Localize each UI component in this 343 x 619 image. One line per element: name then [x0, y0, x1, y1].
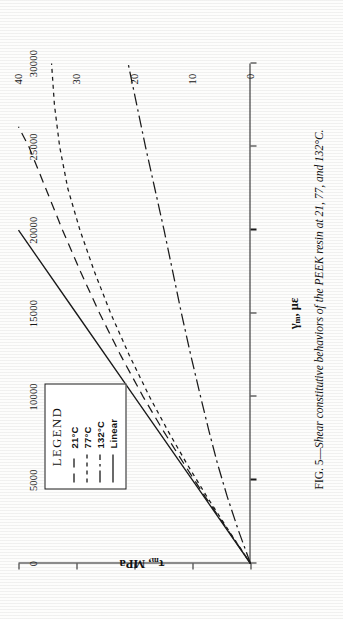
x-tick-label: 10000 — [27, 383, 38, 410]
y-tick-mark — [250, 563, 251, 569]
x-tick-mark — [250, 228, 256, 229]
legend-line-sample — [95, 454, 104, 482]
x-tick-mark — [250, 478, 256, 479]
x-tick-label: 0 — [27, 560, 38, 565]
x-tick-label: 25000 — [27, 133, 38, 160]
scanned-page: 050001000015000200002500030000 010203040… — [0, 0, 343, 619]
legend-box: LEGEND 21°C77°C132°CLinear — [44, 383, 126, 489]
legend-line-sample — [108, 454, 117, 482]
figure-caption: FIG. 5—Shear constitutive behaviors of t… — [312, 23, 324, 595]
y-tick-mark — [18, 563, 19, 569]
y-tick-label: 10 — [187, 73, 198, 84]
legend-item-label: 77°C — [81, 426, 92, 448]
legend-item-132c: 132°C — [93, 390, 106, 482]
x-tick-mark — [250, 312, 256, 313]
series-line-132c — [128, 63, 250, 563]
y-tick-label: 30 — [71, 73, 82, 84]
legend-item-label: 21°C — [68, 426, 79, 448]
x-tick-mark — [250, 62, 256, 63]
y-axis-title-subscript: m — [151, 556, 158, 566]
legend-line-sample — [69, 454, 78, 482]
legend-item-77c: 77°C — [80, 390, 93, 482]
legend-item-linear: Linear — [106, 390, 119, 482]
x-tick-label: 5000 — [27, 469, 38, 491]
legend-line-sample — [82, 454, 91, 482]
figure-caption-prefix: FIG. 5— — [312, 447, 324, 489]
y-axis-title-symbol: τ — [158, 557, 164, 571]
x-tick-label: 30000 — [27, 49, 38, 76]
plot-area: 050001000015000200002500030000 010203040… — [18, 63, 250, 563]
x-tick-mark — [250, 395, 256, 396]
figure-caption-text: Shear constitutive behaviors of the PEEK… — [312, 129, 324, 447]
legend-item-label: 132°C — [94, 420, 105, 448]
legend-title: LEGEND — [49, 390, 64, 482]
figure-5: 050001000015000200002500030000 010203040… — [0, 0, 343, 619]
x-axis-title-symbol: γ — [286, 323, 300, 329]
x-axis-title-subscript: m — [291, 316, 301, 323]
y-axis-title: τm, MPa — [72, 556, 212, 571]
x-tick-label: 15000 — [27, 299, 38, 326]
y-tick-label: 40 — [13, 73, 24, 84]
y-axis-title-units: , MPa — [119, 557, 151, 571]
x-axis-title: γm, με — [286, 63, 301, 563]
legend-item-21c: 21°C — [67, 390, 80, 482]
y-tick-label: 20 — [129, 73, 140, 84]
x-tick-mark — [250, 145, 256, 146]
legend-item-label: Linear — [107, 418, 118, 448]
x-axis-title-units: , με — [286, 297, 300, 316]
rotated-figure-wrapper: 050001000015000200002500030000 010203040… — [0, 0, 343, 619]
legend-rows: 21°C77°C132°CLinear — [67, 390, 119, 482]
series-line-21c — [18, 126, 250, 563]
x-tick-label: 20000 — [27, 216, 38, 243]
y-tick-label: 0 — [245, 73, 256, 78]
